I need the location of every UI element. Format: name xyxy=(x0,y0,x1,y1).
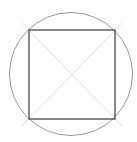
diagram-canvas xyxy=(0,0,137,142)
geometry-diagram xyxy=(0,0,137,142)
